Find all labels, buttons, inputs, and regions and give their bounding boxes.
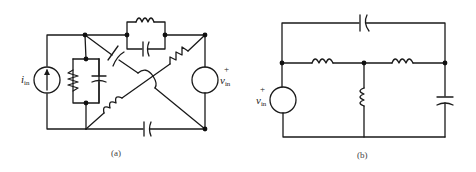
current-source-icon (34, 67, 60, 93)
inductor-icon (360, 88, 364, 106)
voltage-source-icon (192, 67, 218, 93)
circuit-b: + vin (b) (256, 15, 453, 160)
inductor-icon (136, 18, 154, 22)
polarity-plus: + (224, 64, 229, 74)
inductor-icon (104, 97, 122, 113)
resistor-icon (170, 47, 188, 64)
polarity-plus: + (260, 84, 265, 94)
circuit-a: iin + vin (a) (21, 18, 231, 158)
voltage-source-label: vin (220, 74, 231, 88)
voltage-source-label: vin (256, 94, 267, 108)
caption-b: (b) (357, 150, 368, 160)
current-source-label: iin (21, 73, 30, 87)
inductor-icon (392, 59, 413, 63)
circuit-figure: iin + vin (a) (0, 0, 476, 172)
voltage-source-icon (270, 87, 296, 113)
capacitor-icon (108, 46, 124, 66)
capacitor-icon (92, 59, 106, 103)
caption-a: (a) (111, 148, 121, 158)
inductor-icon (312, 59, 333, 63)
